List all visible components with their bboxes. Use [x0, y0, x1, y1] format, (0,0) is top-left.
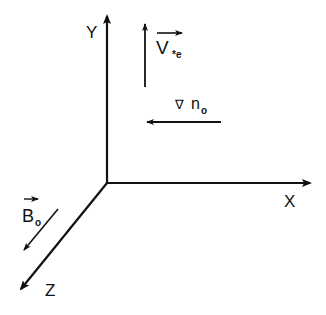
y-axis: Y: [86, 16, 107, 184]
z-axis-label: Z: [45, 281, 55, 300]
drift-velocity-symbol: V: [156, 37, 169, 58]
y-axis-label: Y: [86, 23, 97, 42]
drift-velocity-vector: V *e: [145, 24, 182, 87]
density-subscript: o: [201, 105, 207, 116]
nabla-symbol: ∇: [174, 97, 184, 112]
coordinate-diagram: Y X Z V *e ∇ n o B o: [0, 0, 326, 315]
x-axis: X: [106, 183, 310, 211]
z-axis: Z: [21, 183, 107, 300]
magnetic-field-symbol: B: [22, 206, 34, 226]
density-gradient-vector: ∇ n o: [147, 95, 221, 122]
density-variable: n: [191, 95, 200, 112]
drift-velocity-subscript: *e: [172, 49, 182, 60]
magnetic-field-vector: B o: [22, 199, 58, 250]
x-axis-label: X: [284, 192, 295, 211]
magnetic-field-subscript: o: [35, 217, 41, 228]
